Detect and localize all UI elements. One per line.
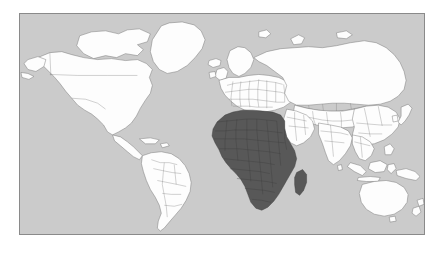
page-root [0,0,443,253]
map-frame [19,13,425,235]
region-java [357,177,380,182]
region-korea [392,115,398,122]
region-sri-lanka [337,165,342,171]
region-tasmania [389,216,396,222]
world-map-svg [20,14,424,234]
